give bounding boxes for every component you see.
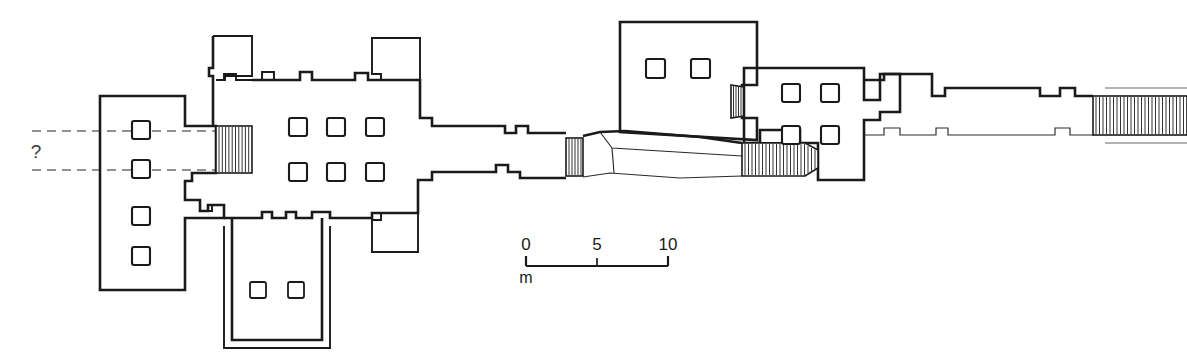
north-annex-west-wall [209,36,213,126]
mid-corridor-south-wall [460,165,566,178]
mid-corridor [460,126,566,178]
chamber-doorway [731,85,744,118]
room-hypostyle-hall [224,72,460,218]
column [691,59,710,78]
column [821,84,839,102]
column-group-hypostyle [289,118,384,181]
column [782,84,800,102]
far-east-corridor-south-wall [864,128,1093,135]
floor-plan-drawing: 0 5 10 m ? [0,0,1187,363]
mid-corridor-north-wall [460,126,566,133]
far-east-corridor-north-wall [864,74,1093,96]
room-south-east-annex [372,213,418,252]
room-south-court [224,218,330,348]
column [327,118,345,136]
scale-label-10: 10 [659,235,678,254]
room-north-chamber [620,22,757,140]
column [250,282,266,298]
north-chamber-outline [620,22,757,140]
scale-unit-label: m [519,269,532,286]
north-east-annex-outline [372,38,420,80]
room-west-hall [100,96,224,290]
ramp-long-wall-lower [612,148,614,173]
corridor-gateway [566,138,583,176]
west-gateway-frame [216,126,252,173]
east-terminal-staircase [1093,88,1187,143]
column [366,163,384,181]
column-group-north-chamber [646,59,710,78]
hypostyle-north-wall [252,72,460,126]
column [366,118,384,136]
column [132,160,150,178]
column [782,126,800,144]
south-east-annex-outline [372,213,418,252]
column [289,163,307,181]
column [327,163,345,181]
floor-plan-figure: 0 5 10 m ? [0,0,1187,363]
grand-staircase-treads [745,144,815,175]
column [132,247,150,265]
west-gateway-ramp [216,126,252,173]
scale-label-0: 0 [521,235,530,254]
chamber-doorway-frame [731,85,744,118]
column-group-east-chamber [782,84,839,144]
grand-staircase [742,143,818,176]
east-ramp-south-wall [583,173,742,178]
west-hall-outline [100,96,224,290]
column [132,121,150,139]
uncertainty-query-label: ? [31,141,42,162]
far-east-corridor [864,74,1093,135]
west-hall-step-detail [185,200,224,211]
column-group-west-hall [132,121,150,265]
column [288,282,304,298]
column-group-south-court [250,282,304,298]
scale-label-5: 5 [592,235,601,254]
column [646,59,665,78]
south-court-inner-wall [232,218,322,340]
column [289,118,307,136]
south-court-outer-wall [224,226,330,348]
column [821,126,839,144]
room-north-east-annex [372,38,420,80]
column [132,207,150,225]
scale-bar: 0 5 10 m [519,235,677,286]
